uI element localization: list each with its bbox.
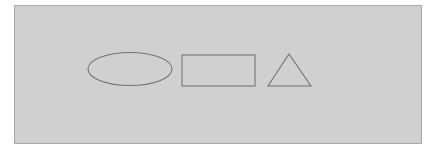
ellipse-shape[interactable] — [88, 53, 172, 86]
shape-panel — [14, 5, 422, 144]
triangle-shape[interactable] — [268, 54, 311, 86]
shape-drawing-area — [15, 6, 423, 145]
rectangle-shape[interactable] — [182, 55, 255, 86]
diagram-canvas — [0, 0, 430, 152]
